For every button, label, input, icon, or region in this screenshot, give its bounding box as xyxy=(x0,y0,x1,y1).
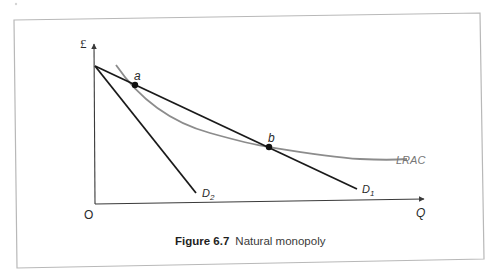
origin-label: O xyxy=(84,208,93,222)
d2-label: D2 xyxy=(202,187,215,202)
point-a-label: a xyxy=(134,69,141,83)
d2-label-subscript: 2 xyxy=(209,193,215,202)
x-axis-label: Q xyxy=(416,206,425,220)
natural-monopoly-figure: £ O Q a b LRAC D1 D2 Figure 6.7Natural m… xyxy=(0,0,498,279)
lrac-curve xyxy=(116,65,407,160)
d1-label-subscript: 1 xyxy=(370,189,374,198)
x-axis xyxy=(95,199,424,204)
y-axis-label: £ xyxy=(80,36,87,51)
d1-label: D1 xyxy=(362,183,374,198)
figure-caption-title: Natural monopoly xyxy=(235,235,325,247)
figure-caption: Figure 6.7Natural monopoly xyxy=(175,235,326,247)
lrac-label: LRAC xyxy=(396,154,425,166)
figure-frame xyxy=(14,13,484,268)
figure-caption-number: Figure 6.7 xyxy=(175,235,229,247)
axes xyxy=(94,44,424,204)
scan-speck xyxy=(15,3,17,5)
demand-curve-d2 xyxy=(95,66,196,193)
y-axis xyxy=(94,44,95,204)
point-b-label: b xyxy=(268,131,275,145)
d1-label-main: D xyxy=(362,183,370,195)
d2-label-main: D xyxy=(202,187,210,199)
